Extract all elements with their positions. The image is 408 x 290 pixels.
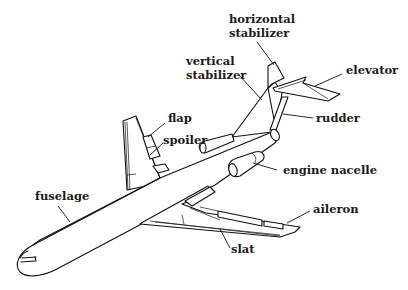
label-aileron: aileron <box>313 203 359 216</box>
label-flap: flap <box>168 112 192 125</box>
label-fuselage: fuselage <box>35 190 89 203</box>
label-vertical-stabilizer-line1: vertical <box>186 55 235 68</box>
label-horizontal-stabilizer-line1: horizontal <box>229 13 295 26</box>
label-spoiler: spoiler <box>163 134 207 147</box>
label-elevator: elevator <box>346 64 398 77</box>
label-engine-nacelle: engine nacelle <box>283 164 377 177</box>
label-vertical-stabilizer-line2: stabilizer <box>186 69 246 82</box>
label-rudder: rudder <box>316 112 360 125</box>
label-horizontal-stabilizer-line2: stabilizer <box>229 27 289 40</box>
airplane-diagram: horizontal stabilizer vertical stabilize… <box>0 0 408 290</box>
label-slat: slat <box>231 243 255 256</box>
